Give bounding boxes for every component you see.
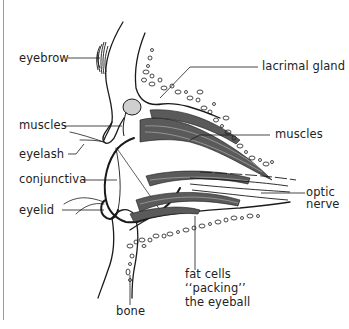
label-eyebrow: eyebrow <box>19 52 69 65</box>
fat-cells-upper <box>142 49 274 167</box>
label-eyelid: eyelid <box>19 204 54 217</box>
eye-anatomy-illustration <box>0 0 349 329</box>
label-fat-cells-line2: ‘‘packing’’ <box>185 282 246 295</box>
label-lacrimal-gland: lacrimal gland <box>262 60 345 73</box>
conjunctiva-line <box>116 148 120 210</box>
face-profile <box>104 22 123 140</box>
eyelash-lower2 <box>76 203 104 214</box>
cheek-profile <box>98 218 114 298</box>
label-fat-cells-line3: the eyeball <box>185 296 250 309</box>
label-eyelash: eyelash <box>19 148 64 161</box>
label-bone: bone <box>116 305 145 318</box>
label-conjunctiva: conjunctiva <box>19 173 86 186</box>
label-muscles-right: muscles <box>275 128 323 141</box>
label-muscles-left: muscles <box>19 119 67 132</box>
orbit-upper-bone <box>135 33 220 118</box>
label-fat-cells-line1: fat cells <box>185 268 231 281</box>
eyelash-upper2 <box>80 140 104 142</box>
label-optic-line2: nerve <box>306 198 339 211</box>
leader-lines <box>62 58 305 305</box>
cornea <box>118 138 134 148</box>
upper-eyelid <box>103 118 124 143</box>
eyelash-lower <box>64 198 104 204</box>
